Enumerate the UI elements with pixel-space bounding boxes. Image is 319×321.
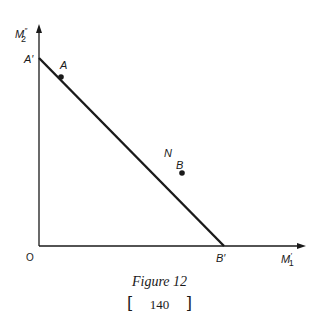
diagram-canvas [0, 0, 319, 321]
point-a-dot [58, 74, 64, 80]
point-b-dot [179, 170, 185, 176]
label-n: N [164, 148, 172, 159]
page-number-line: [ 140 ] [0, 294, 319, 313]
x-axis-label-sub: 1 [289, 258, 294, 268]
figure-caption: Figure 12 [0, 274, 319, 290]
label-a-prime: A′ [24, 54, 33, 65]
x-axis-label: M′1 [281, 252, 297, 265]
y-axis-label: M″2 [15, 27, 32, 40]
label-a: A [60, 60, 67, 71]
y-axis-arrow-icon [36, 24, 42, 33]
y-axis-label-sub: 2 [21, 34, 26, 44]
page-bracket-left: [ [127, 294, 133, 313]
label-b: B [176, 160, 183, 171]
label-b-prime: B′ [216, 253, 225, 264]
x-axis-arrow-icon [297, 243, 306, 249]
line-a-prime-b-prime [39, 58, 224, 246]
page-bracket-right: ] [186, 294, 192, 313]
origin-label: O [26, 253, 34, 263]
page-number: 140 [137, 297, 183, 313]
